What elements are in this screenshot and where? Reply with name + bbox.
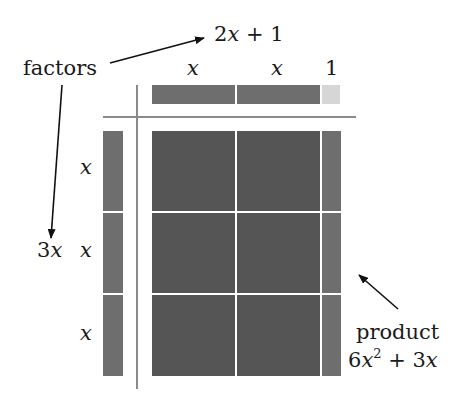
arrows-layer: [0, 0, 470, 405]
arrow-factors-to-left-factor: [51, 85, 62, 238]
arrow-factors-to-top-factor: [110, 38, 204, 63]
arrow-product-to-grid: [359, 275, 398, 309]
